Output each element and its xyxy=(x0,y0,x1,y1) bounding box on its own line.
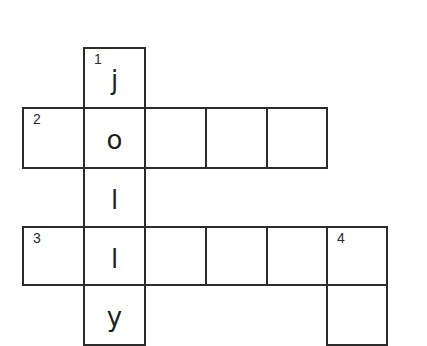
cell-r4-c6[interactable]: 4 xyxy=(326,226,388,286)
cell-letter: l xyxy=(85,246,144,272)
cell-r2-c3[interactable] xyxy=(144,107,207,169)
cell-r4-c3[interactable] xyxy=(144,226,207,286)
cell-letter: o xyxy=(85,127,144,153)
cell-r1-c2[interactable]: 1 j xyxy=(83,47,146,109)
cell-r4-c2[interactable]: l xyxy=(83,226,146,286)
cell-r5-c2[interactable]: y xyxy=(83,284,146,346)
cell-r2-c1[interactable]: 2 xyxy=(22,107,85,169)
clue-number: 2 xyxy=(33,112,41,126)
cell-letter: j xyxy=(85,67,144,93)
cell-r2-c5[interactable] xyxy=(266,107,328,169)
cell-r2-c4[interactable] xyxy=(205,107,268,169)
cell-r4-c5[interactable] xyxy=(266,226,328,286)
clue-number: 3 xyxy=(33,231,41,245)
clue-number: 4 xyxy=(337,231,345,245)
cell-r5-c6[interactable] xyxy=(326,284,388,346)
clue-number: 1 xyxy=(94,52,102,66)
cell-r2-c2[interactable]: o xyxy=(83,107,146,169)
cell-letter: y xyxy=(85,304,144,330)
cell-r4-c4[interactable] xyxy=(205,226,268,286)
cell-letter: l xyxy=(85,187,144,213)
cell-r3-c2[interactable]: l xyxy=(83,167,146,228)
cell-r4-c1[interactable]: 3 xyxy=(22,226,85,286)
